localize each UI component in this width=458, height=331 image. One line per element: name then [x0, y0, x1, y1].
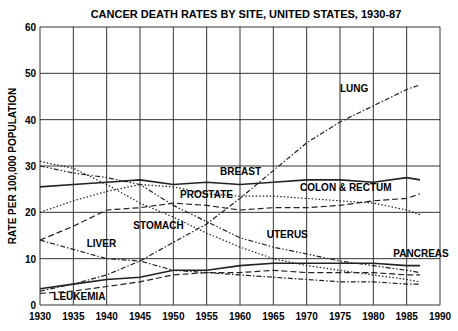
series-labels: LUNGBREASTCOLON & RECTUMPROSTATESTOMACHU…	[53, 83, 449, 303]
chart-title: CANCER DEATH RATES BY SITE, UNITED STATE…	[91, 8, 402, 20]
label-prostate: PROSTATE	[180, 189, 233, 200]
x-tick-label: 1980	[362, 311, 385, 322]
x-tick-label: 1940	[96, 311, 119, 322]
label-pancreas: PANCREAS	[393, 248, 449, 259]
label-leukemia: LEUKEMIA	[53, 291, 105, 302]
y-tick-label: 20	[25, 207, 37, 218]
label-lung: LUNG	[340, 83, 369, 94]
y-tick-label: 60	[25, 22, 37, 33]
y-tick-label: 0	[30, 300, 36, 311]
x-tick-label: 1950	[162, 311, 185, 322]
x-tick-label: 1945	[129, 311, 152, 322]
y-tick-label: 40	[25, 115, 37, 126]
x-tick-label: 1930	[29, 311, 52, 322]
x-tick-label: 1960	[229, 311, 252, 322]
y-tick-label: 30	[25, 161, 37, 172]
x-tick-label: 1990	[429, 311, 452, 322]
x-tick-label: 1965	[262, 311, 285, 322]
x-tick-label: 1985	[396, 311, 419, 322]
line-chart: CANCER DEATH RATES BY SITE, UNITED STATE…	[0, 0, 458, 331]
x-tick-label: 1935	[62, 311, 85, 322]
y-axis-ticks: 0102030405060	[25, 22, 37, 311]
label-stomach: STOMACH	[133, 220, 183, 231]
x-tick-label: 1970	[296, 311, 319, 322]
x-tick-label: 1975	[329, 311, 352, 322]
label-liver: LIVER	[87, 238, 117, 249]
label-breast: BREAST	[220, 166, 261, 177]
x-tick-label: 1955	[196, 311, 219, 322]
y-tick-label: 50	[25, 68, 37, 79]
series-line-pancreas	[40, 263, 420, 289]
label-colon-rectum: COLON & RECTUM	[300, 182, 392, 193]
x-axis-ticks: 1930193519401945195019551960196519701975…	[29, 311, 452, 322]
label-uterus: UTERUS	[267, 229, 308, 240]
y-axis-label: RATE PER 100,000 POPULATION	[7, 88, 18, 244]
y-tick-label: 10	[25, 254, 37, 265]
